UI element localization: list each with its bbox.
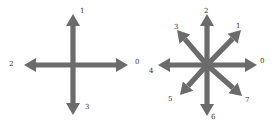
eight-direction-diagram (158, 14, 257, 116)
arrow-3-icon (177, 30, 209, 67)
direction-label-2: 2 (204, 8, 208, 15)
arrow-3-icon (66, 65, 80, 115)
arrow-0-icon (73, 58, 128, 72)
direction-label-3: 3 (174, 24, 178, 31)
arrow-1-icon (205, 30, 241, 67)
direction-label-1: 1 (236, 23, 240, 30)
direction-label-3: 3 (85, 104, 89, 111)
direction-label-7: 7 (245, 97, 249, 104)
direction-label-6: 6 (211, 114, 215, 121)
direction-label-0: 0 (135, 59, 139, 66)
direction-label-4: 4 (149, 68, 153, 75)
direction-label-1: 1 (80, 8, 84, 15)
arrow-1-icon (66, 14, 80, 65)
arrow-2-icon (24, 58, 73, 72)
direction-label-2: 2 (9, 61, 13, 68)
four-direction-diagram (24, 14, 128, 115)
direction-label-0: 0 (260, 58, 264, 65)
arrow-7-icon (205, 63, 242, 96)
direction-label-5: 5 (168, 96, 172, 103)
